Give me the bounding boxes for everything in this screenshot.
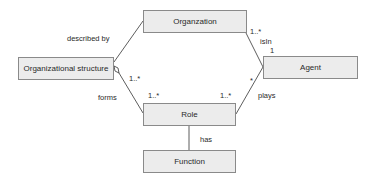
class-label: Role [181,110,197,119]
edge-described-by [114,21,143,62]
multiplicity-plays-agent: * [250,77,253,85]
class-label: Function [174,157,205,166]
label-isin: isIn [260,38,272,46]
aggregation-diamond-icon [114,66,119,73]
class-agent: Agent [263,56,358,79]
class-label: Organzation [173,17,217,26]
multiplicity-forms-struct: 1..* [129,75,140,83]
multiplicity-plays-role: 1..* [220,92,231,100]
multiplicity-isin-agent: 1 [270,47,274,55]
multiplicity-isin-org: 1..* [250,28,261,36]
multiplicity-forms-role: 1..* [148,92,159,100]
class-function: Function [143,150,236,173]
class-label: Organizational structure [24,64,109,73]
class-label: Agent [300,63,321,72]
label-forms: forms [98,94,117,102]
label-has: has [200,136,212,144]
class-role: Role [143,103,236,126]
class-organizational-structure: Organizational structure [18,57,114,80]
class-organization: Organzation [143,10,247,33]
label-plays: plays [258,92,276,100]
label-described-by: described by [67,35,110,43]
